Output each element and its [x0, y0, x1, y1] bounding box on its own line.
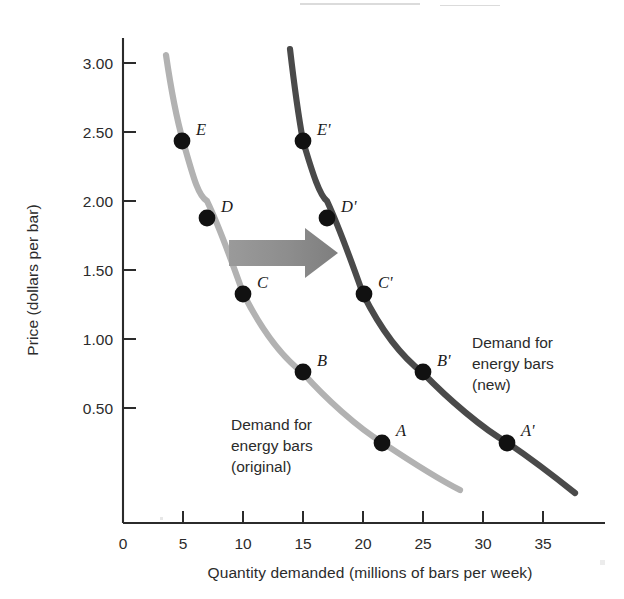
- chart-canvas: 3.00 2.50 2.00 1.50 1.00 0.50 0 5 10 15 …: [0, 0, 624, 599]
- x-tick-label: 20: [354, 535, 372, 552]
- demand-curve-figure: 3.00 2.50 2.00 1.50 1.00 0.50 0 5 10 15 …: [0, 0, 624, 599]
- curve-caption-new: Demand for energy bars (new): [472, 334, 554, 393]
- y-tick-label: 2.50: [83, 124, 114, 141]
- data-points-new: [295, 133, 516, 452]
- y-tick-label: 1.00: [83, 331, 114, 348]
- shift-arrow-shape: [229, 228, 338, 278]
- data-point-label-E-prime: E': [316, 120, 331, 139]
- y-axis-title: Price (dollars per bar): [24, 204, 41, 355]
- x-tick-label: 25: [414, 535, 431, 552]
- data-point-marker: [174, 133, 191, 150]
- demand-curve-original: [166, 55, 460, 490]
- data-point-label-A: A: [395, 421, 407, 440]
- y-tick-label: 2.00: [83, 193, 114, 210]
- data-point-marker: [319, 210, 336, 227]
- y-tick-label: 0.50: [83, 400, 114, 417]
- data-point-label-E: E: [195, 120, 206, 139]
- curve-caption-original: Demand for energy bars (original): [231, 416, 313, 475]
- y-tick-label: 3.00: [83, 55, 114, 72]
- curve-caption-line: Demand for: [231, 416, 312, 433]
- data-point-marker: [199, 210, 216, 227]
- x-tick-label: 5: [179, 535, 188, 552]
- x-axis-ticks: [183, 511, 543, 523]
- data-point-label-D-prime: D': [340, 197, 357, 216]
- x-axis-tick-labels: 0 5 10 15 20 25 30 35: [119, 535, 552, 552]
- curve-caption-line: Demand for: [472, 334, 553, 351]
- data-point-marker: [295, 133, 312, 150]
- y-axis-ticks: [123, 63, 136, 408]
- data-point-marker: [415, 364, 432, 381]
- data-point-label-B-prime: B': [437, 351, 451, 370]
- x-tick-label: 10: [234, 535, 252, 552]
- curve-caption-line: (original): [231, 458, 291, 475]
- scan-artifact: [440, 5, 500, 6]
- data-point-marker: [374, 435, 391, 452]
- axes: [123, 38, 605, 523]
- data-point-labels-original: E D C B A: [195, 120, 407, 440]
- data-point-label-C: C: [257, 273, 269, 292]
- x-tick-label: 15: [294, 535, 311, 552]
- shift-arrow: [229, 228, 338, 278]
- scan-artifact: [300, 3, 420, 5]
- data-point-label-A-prime: A': [520, 421, 535, 440]
- x-tick-label: 30: [474, 535, 492, 552]
- y-axis-tick-labels: 3.00 2.50 2.00 1.50 1.00 0.50: [83, 55, 114, 417]
- curve-caption-line: energy bars: [472, 355, 554, 372]
- data-point-marker: [356, 286, 373, 303]
- data-point-label-B: B: [317, 351, 327, 370]
- data-point-label-C-prime: C': [378, 273, 393, 292]
- scan-artifact: [600, 560, 605, 565]
- curve-caption-line: (new): [472, 376, 511, 393]
- data-point-marker: [295, 364, 312, 381]
- curve-path-original: [166, 55, 460, 490]
- y-tick-label: 1.50: [83, 262, 114, 279]
- x-tick-label: 0: [119, 535, 128, 552]
- data-point-label-D: D: [220, 197, 233, 216]
- scan-artifact: [160, 517, 163, 520]
- data-point-marker: [235, 286, 252, 303]
- curve-caption-line: energy bars: [231, 437, 313, 454]
- x-axis-title: Quantity demanded (millions of bars per …: [208, 564, 533, 581]
- x-tick-label: 35: [534, 535, 551, 552]
- data-point-marker: [499, 435, 516, 452]
